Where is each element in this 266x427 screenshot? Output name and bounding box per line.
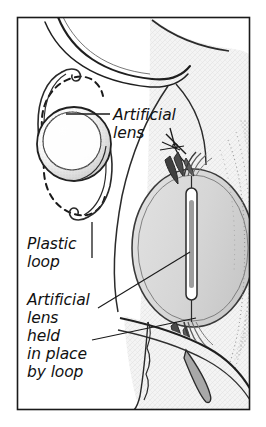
illustration-figure: Artificial lens Plastic loop Artificial … bbox=[0, 0, 266, 427]
held-line-1: Artificial bbox=[26, 291, 91, 309]
held-line-4: in place bbox=[27, 345, 87, 363]
iol-diagram-svg: Artificial lens Plastic loop Artificial … bbox=[0, 0, 266, 427]
artificial-lens-line-2: lens bbox=[113, 124, 144, 142]
inset-optic bbox=[37, 107, 111, 181]
held-line-3: held bbox=[27, 327, 60, 345]
plastic-loop-line-2: loop bbox=[27, 253, 60, 271]
illustration-content: Artificial lens Plastic loop Artificial … bbox=[17, 17, 254, 410]
plastic-loop-line-1: Plastic bbox=[27, 235, 77, 253]
artificial-lens-line-1: Artificial bbox=[112, 106, 177, 124]
held-line-2: lens bbox=[27, 309, 58, 327]
held-line-5: by loop bbox=[27, 363, 84, 381]
